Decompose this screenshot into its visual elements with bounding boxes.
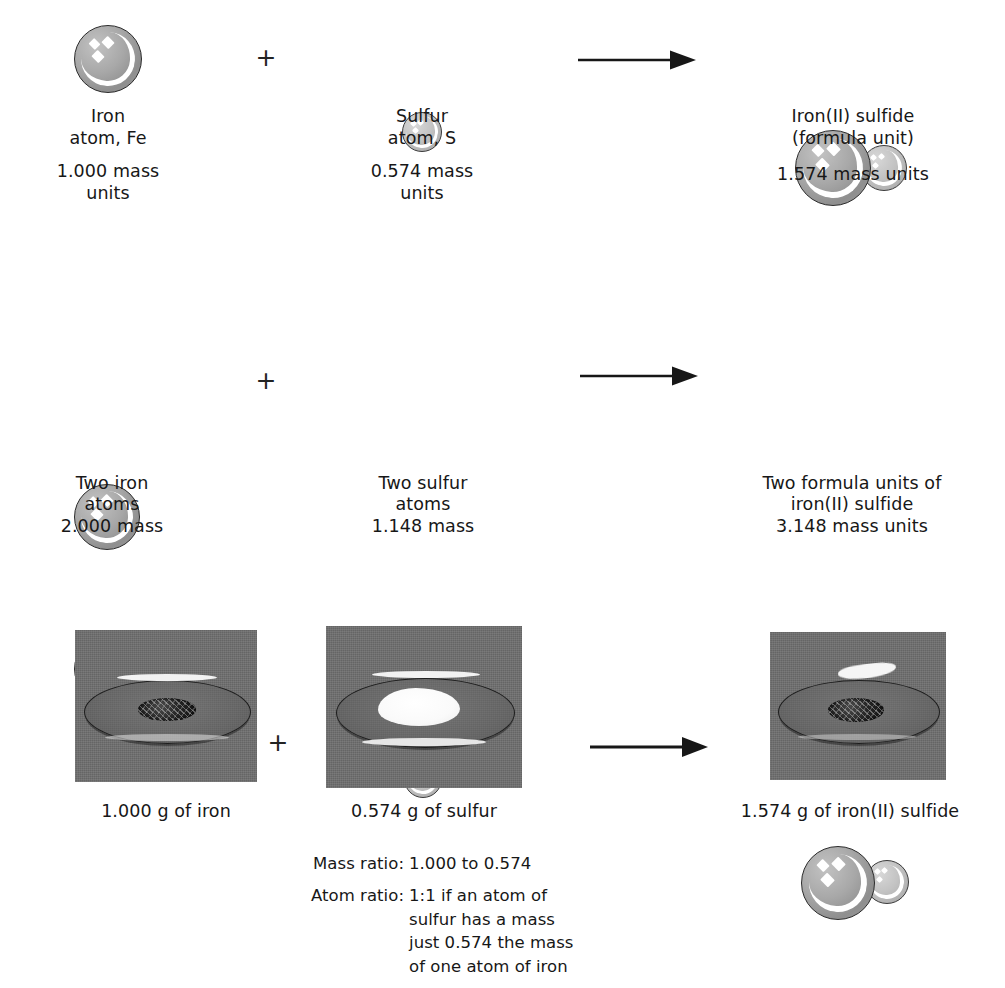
two-iron-sulfide-units-label: Two formula units of iron(II) sulfide 3.… [716, 473, 988, 537]
mass-ratio-label: Mass ratio: [300, 852, 404, 875]
atom-ratio-row: Atom ratio: 1:1 if an atom of sulfur has… [300, 884, 630, 978]
ratio-explanation: Mass ratio: 1.000 to 0.574 Atom ratio: 1… [300, 852, 630, 978]
two-sulfur-atoms-label: Two sulfur atoms 1.148 mass [343, 473, 503, 537]
atom-ratio-label: Atom ratio: [300, 884, 404, 978]
iron-atom-label: Iron atom, Fe [28, 105, 188, 150]
plus-sign-row1: + [250, 45, 282, 70]
photo-iron-sulfide-on-watch-glass [770, 632, 946, 780]
photo-iron-sulfide-caption: 1.574 g of iron(II) sulfide [700, 800, 1000, 823]
photo-sulfur-caption: 0.574 g of sulfur [304, 800, 544, 823]
iron-sulfide-mass: 1.574 mass units [738, 163, 968, 185]
sulfur-atom-label: Sulfur atom, S [342, 105, 502, 150]
iron-sulfide-label: Iron(II) sulfide (formula unit) [738, 105, 968, 150]
plus-sign-row3: + [262, 730, 294, 755]
chemistry-diagram: Iron atom, Fe 1.000 mass units + Sulfur … [0, 0, 1005, 988]
plus-sign-row2: + [250, 368, 282, 393]
reaction-arrow-row2 [580, 364, 698, 388]
reaction-arrow-row3 [590, 735, 708, 759]
atom-ratio-value: 1:1 if an atom of sulfur has a mass just… [404, 884, 573, 978]
photo-sulfur-on-watch-glass [326, 626, 522, 788]
iron-sulfide-unit-2 [801, 846, 913, 918]
photo-iron-caption: 1.000 g of iron [46, 800, 286, 823]
mass-ratio-value: 1.000 to 0.574 [404, 852, 531, 875]
reaction-arrow-row1 [578, 48, 696, 72]
iron-atom-mass: 1.000 mass units [28, 160, 188, 205]
sulfur-atom-mass: 0.574 mass units [342, 160, 502, 205]
photo-iron-on-watch-glass [75, 630, 257, 782]
two-iron-atoms-label: Two iron atoms 2.000 mass [28, 473, 196, 537]
iron-atom-sphere [74, 25, 142, 93]
mass-ratio-row: Mass ratio: 1.000 to 0.574 [300, 852, 630, 875]
